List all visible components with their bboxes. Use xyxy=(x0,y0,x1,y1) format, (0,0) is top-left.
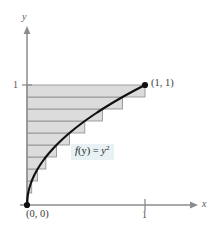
rectangle-strip xyxy=(27,157,46,169)
marker-point-1-1 xyxy=(142,82,148,88)
point-label-one-one: (1, 1) xyxy=(151,78,174,89)
y-axis-label: y xyxy=(22,12,26,22)
x-axis-label: x xyxy=(202,199,206,209)
rectangle-strip xyxy=(27,109,103,121)
function-equation-label: f(y) = y2 xyxy=(71,144,114,160)
function-argument: (y) xyxy=(78,145,90,156)
figure-canvas: y x 1 1 (1, 1) (0, 0) f(y) = y2 xyxy=(0,0,217,229)
x-axis-tick-label-one: 1 xyxy=(142,210,147,220)
function-equals: = xyxy=(90,145,101,156)
point-label-origin: (0, 0) xyxy=(26,209,49,220)
x-axis-arrowhead xyxy=(190,202,198,209)
function-exponent: 2 xyxy=(106,144,110,152)
plot-svg xyxy=(0,0,217,229)
y-axis-arrowhead xyxy=(24,26,31,34)
y-axis-tick-label-one: 1 xyxy=(13,80,18,90)
rectangle-strip xyxy=(27,97,123,109)
